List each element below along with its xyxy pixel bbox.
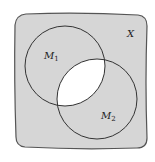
venn-diagram: M1 M2 X <box>0 0 155 162</box>
label-universe-x: X <box>126 28 135 39</box>
